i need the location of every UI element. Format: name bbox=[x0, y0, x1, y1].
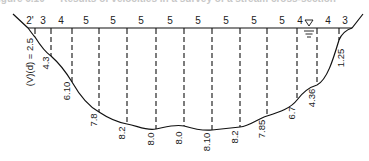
cross-section-diagram: 2'3455555555443 (V)(d) = 2.54.36.107.88.… bbox=[0, 0, 369, 161]
section-width-label: 5 bbox=[138, 15, 144, 26]
section-width-label: 2' bbox=[26, 15, 34, 26]
velocity-depth-label: 1.25 bbox=[335, 49, 346, 68]
velocity-depth-label: 4.36 bbox=[306, 89, 317, 108]
section-width-label: 5 bbox=[83, 15, 89, 26]
velocity-depth-label: 8.0 bbox=[145, 132, 156, 145]
section-width-label: 5 bbox=[195, 15, 201, 26]
velocity-depth-label: (V)(d) = 2.5 bbox=[24, 38, 35, 86]
section-width-label: 4 bbox=[325, 15, 331, 26]
velocity-depth-label: 6.7 bbox=[286, 106, 297, 119]
velocity-depth-label: 7.8 bbox=[88, 113, 99, 126]
velocity-depth-label: 6.10 bbox=[61, 82, 72, 101]
section-width-label: 4 bbox=[58, 15, 64, 26]
velocity-depth-label: 8.2 bbox=[116, 126, 127, 139]
velocity-depth-label: 8.0 bbox=[173, 131, 184, 144]
velocity-depth-label: 7.85 bbox=[256, 120, 267, 139]
velocity-depth-label: 8.10 bbox=[201, 133, 212, 152]
velocity-depth-label: 8.2 bbox=[229, 130, 240, 143]
section-width-label: 4 bbox=[297, 15, 303, 26]
section-width-label: 5 bbox=[279, 15, 285, 26]
section-width-label: 5 bbox=[251, 15, 257, 26]
section-width-label: 3 bbox=[342, 15, 348, 26]
section-width-label: 3 bbox=[40, 15, 46, 26]
velocity-depth-label: 4.3 bbox=[40, 56, 51, 69]
section-width-label: 5 bbox=[223, 15, 229, 26]
section-width-label: 5 bbox=[167, 15, 173, 26]
section-width-label: 5 bbox=[110, 15, 116, 26]
